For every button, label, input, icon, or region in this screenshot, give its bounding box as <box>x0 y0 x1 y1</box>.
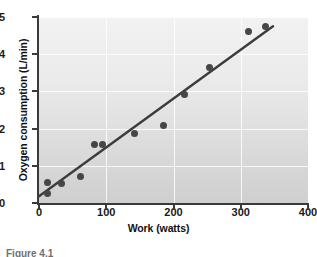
x-tick-mark <box>307 205 309 210</box>
x-tick-label: 400 <box>288 207 317 218</box>
data-point <box>206 64 213 71</box>
y-tick-label: 3 <box>0 86 5 97</box>
x-tick-mark <box>240 205 242 210</box>
figure-container: 012345 0100200300400 Oxygen consumption … <box>0 0 317 257</box>
data-point <box>245 28 252 35</box>
data-point <box>160 122 167 129</box>
x-tick-mark <box>173 205 175 210</box>
y-tick-label: 5 <box>0 12 5 23</box>
y-tick-label: 2 <box>0 124 5 135</box>
y-axis-title: Oxygen consumption (L/min) <box>17 10 29 210</box>
y-tick-mark <box>32 128 38 130</box>
y-tick-mark <box>32 90 38 92</box>
data-point <box>44 179 51 186</box>
x-tick-mark <box>38 205 40 210</box>
data-point <box>181 91 188 98</box>
x-tick-mark <box>105 205 107 210</box>
y-tick-label: 4 <box>0 49 5 60</box>
y-tick-label: 1 <box>0 161 5 172</box>
y-tick-label: 0 <box>0 198 5 209</box>
gridline-vertical <box>308 17 309 203</box>
data-point <box>262 23 269 30</box>
figure-caption: Figure 4.1 <box>6 249 311 257</box>
y-tick-mark <box>32 53 38 55</box>
data-point <box>58 180 65 187</box>
x-axis-title: Work (watts) <box>0 222 317 234</box>
y-tick-mark <box>32 16 38 18</box>
plot-area <box>39 17 308 203</box>
data-point <box>91 141 98 148</box>
y-tick-mark <box>32 202 38 204</box>
y-tick-mark <box>32 165 38 167</box>
data-point <box>131 130 138 137</box>
